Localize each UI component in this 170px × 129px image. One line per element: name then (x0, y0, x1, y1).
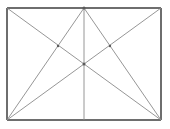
left-crossing-vertex (57, 45, 59, 47)
figure-canvas (0, 0, 170, 129)
geometric-figure (0, 0, 170, 129)
apex-to-bottomleft (7, 8, 84, 120)
apex-vertex (83, 7, 86, 10)
apex-to-bottomright (84, 8, 161, 120)
center-vertex (83, 63, 86, 66)
right-crossing-vertex (109, 45, 111, 47)
